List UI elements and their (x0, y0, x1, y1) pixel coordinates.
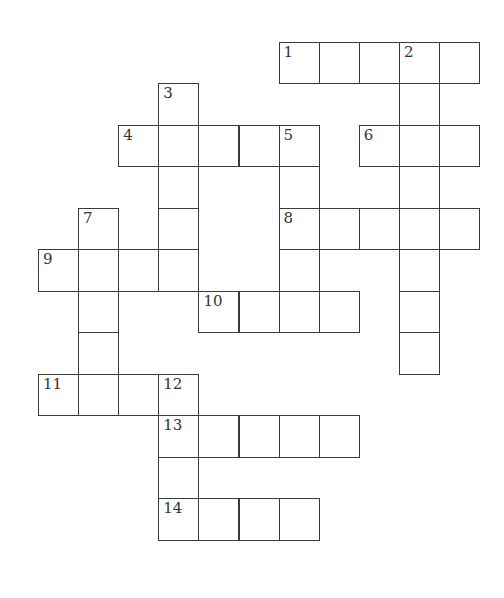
crossword-cell-13[interactable]: 13 (158, 415, 199, 458)
crossword-cell[interactable] (319, 208, 360, 251)
crossword-cell-9[interactable]: 9 (38, 249, 79, 292)
crossword-cell[interactable] (198, 498, 239, 541)
crossword-cell[interactable] (158, 457, 199, 500)
clue-number: 7 (83, 211, 93, 226)
clue-number: 2 (404, 45, 414, 60)
crossword-cell[interactable] (399, 208, 440, 251)
crossword-cell[interactable] (198, 125, 239, 168)
crossword-cell-10[interactable]: 10 (198, 291, 239, 334)
crossword-cell-11[interactable]: 11 (38, 374, 79, 417)
crossword-cell[interactable] (239, 415, 280, 458)
crossword-cell[interactable] (158, 249, 199, 292)
clue-number: 1 (284, 45, 294, 60)
crossword-cell[interactable] (158, 166, 199, 209)
crossword-cell[interactable] (399, 291, 440, 334)
clue-number: 9 (43, 252, 53, 267)
clue-number: 12 (163, 377, 182, 392)
clue-number: 10 (203, 294, 222, 309)
crossword-cell[interactable] (439, 125, 480, 168)
crossword-cell[interactable] (399, 83, 440, 126)
clue-number: 14 (163, 501, 182, 516)
crossword-cell[interactable] (78, 332, 119, 375)
crossword-cell-5[interactable]: 5 (279, 125, 320, 168)
crossword-cell[interactable] (399, 125, 440, 168)
crossword-cell[interactable] (439, 208, 480, 251)
crossword-cell[interactable] (78, 291, 119, 334)
crossword-grid: 1234567891011121314 (0, 0, 504, 598)
crossword-cell[interactable] (118, 249, 159, 292)
crossword-cell[interactable] (239, 291, 280, 334)
crossword-cell[interactable] (279, 498, 320, 541)
crossword-cell[interactable] (279, 291, 320, 334)
crossword-cell-1[interactable]: 1 (279, 42, 320, 85)
crossword-cell[interactable] (279, 166, 320, 209)
crossword-cell-4[interactable]: 4 (118, 125, 159, 168)
crossword-cell[interactable] (118, 374, 159, 417)
crossword-cell[interactable] (78, 374, 119, 417)
crossword-cell-2[interactable]: 2 (399, 42, 440, 85)
crossword-cell[interactable] (359, 208, 400, 251)
crossword-cell[interactable] (319, 291, 360, 334)
clue-number: 8 (284, 211, 294, 226)
crossword-cell[interactable] (158, 208, 199, 251)
crossword-cell[interactable] (239, 125, 280, 168)
clue-number: 6 (364, 128, 374, 143)
crossword-cell[interactable] (399, 166, 440, 209)
crossword-cell[interactable] (279, 249, 320, 292)
crossword-cell[interactable] (399, 332, 440, 375)
crossword-cell[interactable] (239, 498, 280, 541)
clue-number: 5 (284, 128, 294, 143)
crossword-cell[interactable] (279, 415, 320, 458)
crossword-cell[interactable] (198, 415, 239, 458)
clue-number: 4 (123, 128, 133, 143)
crossword-cell-14[interactable]: 14 (158, 498, 199, 541)
crossword-cell-3[interactable]: 3 (158, 83, 199, 126)
crossword-cell[interactable] (399, 249, 440, 292)
crossword-cell[interactable] (319, 42, 360, 85)
crossword-cell-6[interactable]: 6 (359, 125, 400, 168)
crossword-cell-7[interactable]: 7 (78, 208, 119, 251)
crossword-cell[interactable] (158, 125, 199, 168)
crossword-cell-8[interactable]: 8 (279, 208, 320, 251)
crossword-cell[interactable] (319, 415, 360, 458)
clue-number: 3 (163, 86, 173, 101)
clue-number: 11 (43, 377, 62, 392)
crossword-cell[interactable] (78, 249, 119, 292)
crossword-cell-12[interactable]: 12 (158, 374, 199, 417)
clue-number: 13 (163, 418, 182, 433)
crossword-cell[interactable] (359, 42, 400, 85)
crossword-cell[interactable] (439, 42, 480, 85)
